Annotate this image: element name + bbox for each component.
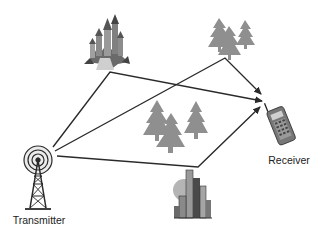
radio-tower-icon xyxy=(24,146,52,209)
multipath-diagram xyxy=(0,0,330,236)
city-buildings-icon xyxy=(173,170,212,218)
pine-trees-icon xyxy=(208,18,255,60)
castle-icon xyxy=(84,14,130,70)
mobile-phone-icon xyxy=(263,97,297,145)
receiver-label: Receiver xyxy=(268,154,309,166)
pine-trees-icon xyxy=(143,100,208,153)
transmitter-label: Transmitter xyxy=(13,214,66,226)
